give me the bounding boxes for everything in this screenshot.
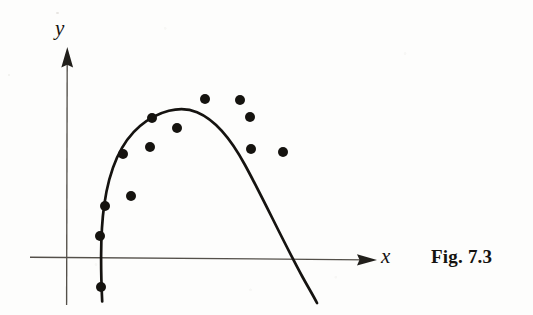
figure-caption: Fig. 7.3 xyxy=(431,246,492,268)
data-point-marker xyxy=(118,149,128,159)
fitted-parabola-curve xyxy=(101,109,317,303)
data-point-marker xyxy=(172,123,182,133)
data-point-marker xyxy=(235,95,245,105)
data-point-marker xyxy=(96,282,106,292)
fitted-curve-group xyxy=(101,109,317,303)
data-point-marker xyxy=(95,231,105,241)
y-axis-label: y xyxy=(55,18,64,39)
data-point-marker xyxy=(100,201,110,211)
y-axis-line xyxy=(67,60,68,305)
data-point-marker xyxy=(147,113,157,123)
data-point-marker xyxy=(246,144,256,154)
axes-group xyxy=(30,47,377,305)
data-point-marker xyxy=(126,191,136,201)
x-axis-label: x xyxy=(381,246,390,267)
y-axis-arrowhead xyxy=(61,47,73,68)
figure-page: y x Fig. 7.3 xyxy=(0,0,533,315)
data-point-marker xyxy=(200,94,210,104)
x-axis-line xyxy=(30,257,366,260)
data-point-marker xyxy=(145,142,155,152)
data-point-marker xyxy=(278,147,288,157)
x-axis-arrowhead xyxy=(357,254,377,265)
data-point-marker xyxy=(245,112,255,122)
